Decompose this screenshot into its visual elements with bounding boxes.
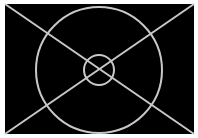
target-reticle-figure: [0, 0, 198, 138]
